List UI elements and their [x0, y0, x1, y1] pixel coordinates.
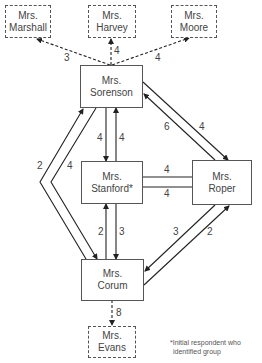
node-roper-line2: Roper: [208, 183, 235, 195]
weight-corum-stanford: 2: [98, 227, 104, 237]
node-sorenson: Mrs. Sorenson: [80, 65, 143, 108]
weight-stanford-corum: 3: [119, 227, 125, 237]
node-harvey: Mrs. Harvey: [88, 5, 136, 38]
node-stanford: Mrs. Stanford*: [81, 161, 143, 204]
weight-sorenson-harvey: 4: [114, 46, 120, 56]
node-marshall-line2: Marshall: [9, 22, 47, 34]
weight-roper-stanford: 4: [164, 189, 170, 199]
edge-corum-roper: [144, 206, 229, 285]
node-stanford-line2: Stanford*: [91, 183, 133, 195]
weight-stanford-sorenson: 4: [119, 133, 125, 143]
node-moore: Mrs. Moore: [171, 5, 217, 38]
node-corum-line1: Mrs.: [103, 268, 122, 280]
node-harvey-line1: Mrs.: [102, 10, 121, 22]
edge-corum-sorenson: [40, 109, 86, 259]
node-evans: Mrs. Evans: [88, 326, 136, 358]
node-marshall-line1: Mrs.: [18, 10, 37, 22]
node-moore-line1: Mrs.: [184, 10, 203, 22]
node-roper-line1: Mrs.: [212, 171, 231, 183]
weight-sorenson-roper: 4: [199, 122, 205, 132]
footnote-line1: *Initial respondent who: [170, 338, 241, 347]
weight-corum-roper: 2: [207, 227, 213, 237]
node-marshall: Mrs. Marshall: [5, 5, 51, 38]
node-corum: Mrs. Corum: [81, 259, 144, 301]
node-harvey-line2: Harvey: [96, 22, 128, 34]
weight-sorenson-marshall: 3: [64, 53, 70, 63]
weight-roper-corum: 3: [173, 227, 179, 237]
node-stanford-line1: Mrs.: [102, 171, 121, 183]
node-evans-line2: Evans: [98, 342, 126, 354]
node-corum-line2: Corum: [97, 280, 127, 292]
weight-sorenson-stanford: 4: [97, 133, 103, 143]
weight-sorenson-moore: 4: [155, 53, 161, 63]
edge-roper-corum: [145, 205, 215, 271]
footnote: *Initial respondent who identified group: [170, 338, 241, 356]
footnote-line2: identified group: [170, 347, 241, 356]
weight-roper-sorenson: 6: [164, 122, 170, 132]
node-moore-line2: Moore: [180, 22, 208, 34]
edge-sorenson-moore: [112, 38, 189, 65]
node-evans-line1: Mrs.: [102, 330, 121, 342]
weight-sorenson-corum: 4: [67, 161, 73, 171]
weight-corum-sorenson: 2: [37, 161, 43, 171]
node-sorenson-line1: Mrs.: [102, 75, 121, 87]
node-roper: Mrs. Roper: [192, 160, 252, 205]
weight-corum-evans: 8: [116, 308, 122, 318]
edge-sorenson-marshall: [37, 39, 110, 65]
node-sorenson-line2: Sorenson: [90, 87, 133, 99]
edge-sorenson-roper: [143, 82, 228, 160]
weight-stanford-roper: 4: [164, 165, 170, 175]
